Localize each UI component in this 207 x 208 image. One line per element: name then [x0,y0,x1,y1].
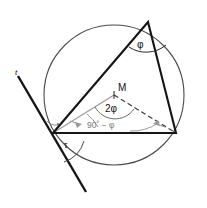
figure-background [0,0,207,208]
inscribed-angle-label: φ [137,39,144,50]
base-angle-label: 90˚ − φ [87,120,115,130]
geometry-figure: t M φ 2φ 90˚ − φ τ [0,0,207,208]
center-point-label: M [118,82,126,93]
right-angle-mark-dot [57,123,59,125]
figure-canvas: t M φ 2φ 90˚ − φ τ [0,0,207,208]
central-angle-label: 2φ [105,103,118,114]
